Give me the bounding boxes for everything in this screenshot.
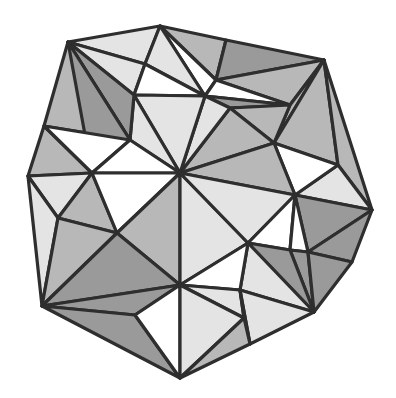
triangle-layer	[28, 26, 372, 378]
diagram-svg	[0, 0, 396, 398]
triangulated-polygon-diagram	[0, 0, 396, 398]
triangle-dark	[308, 252, 352, 312]
